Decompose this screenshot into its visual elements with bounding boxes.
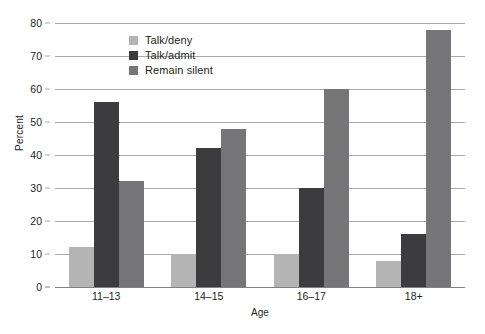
bar bbox=[376, 261, 401, 287]
bar bbox=[426, 30, 451, 287]
y-tick-label: 40 bbox=[30, 149, 42, 161]
y-tick-label: 60 bbox=[30, 83, 42, 95]
legend-swatch-icon bbox=[129, 51, 138, 60]
x-tick-label: 14–15 bbox=[194, 290, 223, 302]
y-tick-mark bbox=[45, 188, 50, 189]
bar bbox=[69, 247, 94, 287]
bar bbox=[94, 102, 119, 287]
bar bbox=[299, 188, 324, 287]
x-tick-label: 18+ bbox=[405, 290, 423, 302]
bar bbox=[324, 89, 349, 287]
plot-area bbox=[55, 23, 465, 287]
bar bbox=[401, 234, 426, 287]
y-tick-mark bbox=[45, 287, 50, 288]
legend-label: Talk/deny bbox=[145, 34, 192, 46]
x-axis-title: Age bbox=[55, 307, 465, 318]
y-tick-label: 30 bbox=[30, 182, 42, 194]
legend: Talk/denyTalk/admitRemain silent bbox=[129, 33, 213, 78]
bar bbox=[221, 129, 246, 287]
bar-series-container bbox=[55, 23, 465, 287]
x-tick-label: 11–13 bbox=[92, 290, 120, 302]
y-tick-mark bbox=[45, 23, 50, 24]
bar-group bbox=[376, 23, 451, 287]
y-tick-mark bbox=[45, 254, 50, 255]
legend-swatch-icon bbox=[129, 66, 138, 75]
y-tick-mark bbox=[45, 122, 50, 123]
bar-group bbox=[274, 23, 349, 287]
legend-swatch-icon bbox=[129, 36, 138, 45]
x-tick-label: 16–17 bbox=[297, 290, 326, 302]
legend-item: Talk/admit bbox=[129, 48, 213, 62]
y-tick-label: 20 bbox=[30, 215, 42, 227]
bar bbox=[196, 148, 221, 287]
legend-item: Talk/deny bbox=[129, 33, 213, 47]
y-tick-label: 80 bbox=[30, 17, 42, 29]
y-tick-mark bbox=[45, 89, 50, 90]
y-tick-label: 10 bbox=[30, 248, 42, 260]
y-tick-label: 70 bbox=[30, 50, 42, 62]
x-axis-tick-labels: 11–1314–1516–1718+ bbox=[55, 290, 465, 306]
y-tick-label: 0 bbox=[36, 281, 42, 293]
bar bbox=[119, 181, 144, 287]
legend-item: Remain silent bbox=[129, 63, 213, 77]
y-axis-tick-labels: 01020304050607080 bbox=[0, 23, 50, 287]
bar bbox=[274, 254, 299, 287]
y-tick-mark bbox=[45, 155, 50, 156]
y-tick-mark bbox=[45, 56, 50, 57]
legend-label: Remain silent bbox=[145, 64, 213, 76]
x-axis-line bbox=[55, 287, 465, 288]
y-tick-mark bbox=[45, 221, 50, 222]
legend-label: Talk/admit bbox=[145, 49, 196, 61]
y-tick-label: 50 bbox=[30, 116, 42, 128]
bar-chart: Percent 01020304050607080 11–1314–1516–1… bbox=[0, 0, 485, 334]
bar bbox=[171, 254, 196, 287]
